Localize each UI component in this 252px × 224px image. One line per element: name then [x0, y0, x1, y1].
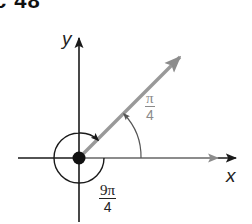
y-axis-label: y — [62, 28, 72, 50]
reference-angle-arc — [124, 114, 141, 158]
coterminal-angle-numerator: 9π — [99, 183, 116, 199]
angle-diagram — [0, 0, 252, 224]
terminal-side-ray — [79, 57, 180, 158]
coterminal-angle-label: 9π 4 — [99, 183, 116, 214]
reference-angle-label: π 4 — [145, 91, 155, 122]
x-axis-label: x — [226, 165, 236, 187]
reference-angle-numerator: π — [145, 91, 155, 107]
coterminal-angle-denominator: 4 — [104, 199, 112, 214]
reference-angle-denominator: 4 — [146, 107, 154, 122]
origin-point — [73, 152, 86, 165]
